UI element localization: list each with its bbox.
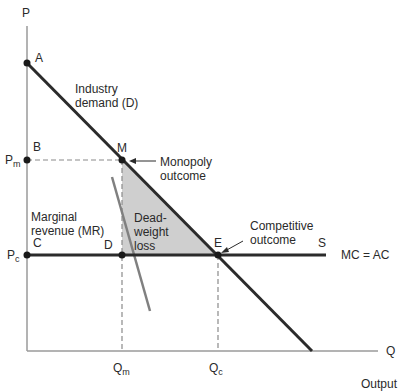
demand-label: Industrydemand (D) — [75, 82, 138, 110]
pm-label: Pm — [5, 153, 21, 168]
pc-label: Pc — [7, 248, 20, 263]
point-b — [24, 157, 31, 164]
point-d-label: D — [104, 238, 113, 252]
qc-label: Qc — [209, 361, 223, 376]
competitive-outcome-label: Competitiveoutcome — [250, 219, 313, 247]
deadweight-loss-label: Dead-weightloss — [134, 211, 169, 253]
competitive-arrowhead — [221, 247, 229, 253]
qm-label: Qm — [113, 361, 130, 376]
point-a — [24, 60, 31, 67]
mc-ac-label: MC = AC — [341, 248, 389, 262]
output-caption: Output — [361, 377, 397, 391]
monopoly-outcome-label: Monopolyoutcome — [160, 155, 212, 183]
point-e — [215, 252, 222, 259]
point-m — [119, 157, 126, 164]
monopoly-arrowhead — [129, 158, 136, 164]
x-axis-label: Q — [386, 344, 395, 358]
mr-label: Marginalrevenue (MR) — [31, 210, 104, 238]
point-d — [119, 252, 126, 259]
point-c — [24, 252, 31, 259]
point-m-label: M — [117, 141, 127, 155]
point-e-label: E — [214, 236, 222, 250]
point-b-label: B — [33, 140, 41, 154]
point-s-label: S — [318, 236, 326, 250]
point-a-label: A — [35, 51, 43, 65]
demand-curve — [27, 63, 312, 351]
point-c-label: C — [33, 236, 42, 250]
y-axis-label: P — [22, 6, 30, 20]
